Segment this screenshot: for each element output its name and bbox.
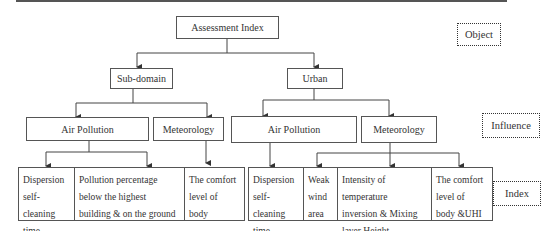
node-label: Meteorology — [163, 124, 215, 135]
legend-label: Influence — [491, 120, 531, 131]
index-group-urban: Dispersion self-cleaning time Weak wind … — [248, 167, 493, 221]
node-label: Urban — [303, 73, 328, 84]
node-assessment-index: Assessment Index — [176, 16, 279, 39]
node-label: Meteorology — [373, 124, 425, 135]
index-cell: The comfort level of body — [184, 168, 244, 220]
node-label: Air Pollution — [61, 124, 114, 135]
index-cell: Weak wind area — [303, 168, 337, 220]
index-cell: Dispersion self-cleaning time — [19, 168, 74, 220]
index-cell: Intensity of temperature inversion & Mix… — [337, 168, 431, 220]
legend-influence: Influence — [482, 113, 540, 138]
index-group-subdomain: Dispersion self-cleaning time Pollution … — [18, 167, 245, 221]
legend-index: Index — [493, 181, 541, 206]
legend-label: Index — [505, 188, 529, 199]
node-subdomain-air-pollution: Air Pollution — [26, 117, 149, 141]
node-label: Assessment Index — [191, 22, 264, 33]
node-sub-domain: Sub-domain — [110, 68, 173, 89]
legend-object: Object — [457, 23, 501, 46]
legend-label: Object — [465, 29, 493, 40]
node-urban: Urban — [287, 68, 343, 89]
node-label: Air Pollution — [268, 124, 321, 135]
index-cell: Pollution percentage below the highest b… — [74, 168, 184, 220]
node-subdomain-meteorology: Meteorology — [153, 117, 224, 141]
index-cell: The comfort level of body &UHI — [431, 168, 492, 220]
node-urban-air-pollution: Air Pollution — [231, 116, 357, 143]
index-cell: Dispersion self-cleaning time — [249, 168, 303, 220]
node-label: Sub-domain — [117, 73, 166, 84]
node-urban-meteorology: Meteorology — [361, 116, 437, 143]
